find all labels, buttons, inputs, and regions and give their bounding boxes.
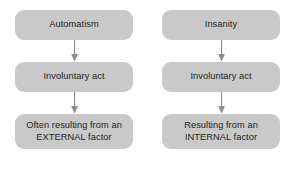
arrow-involuntary-to-internal bbox=[162, 92, 280, 114]
node-involuntary-act-right-label: Involuntary act bbox=[166, 71, 276, 82]
node-external-factor-line2: EXTERNAL factor bbox=[36, 132, 111, 142]
node-automatism: Automatism bbox=[15, 10, 133, 40]
down-arrow-icon bbox=[217, 40, 226, 62]
node-external-factor-line1: Often resulting from an bbox=[26, 120, 122, 130]
node-internal-factor-label: Resulting from an INTERNAL factor bbox=[166, 120, 276, 143]
node-insanity: Insanity bbox=[162, 10, 280, 40]
node-involuntary-act-left: Involuntary act bbox=[15, 62, 133, 92]
arrow-involuntary-to-external bbox=[15, 92, 133, 114]
down-arrow-icon bbox=[217, 92, 226, 114]
node-external-factor: Often resulting from an EXTERNAL factor bbox=[15, 114, 133, 149]
arrow-automatism-to-involuntary bbox=[15, 40, 133, 62]
node-involuntary-act-left-label: Involuntary act bbox=[19, 71, 129, 82]
node-automatism-label: Automatism bbox=[19, 19, 129, 30]
node-internal-factor-line1: Resulting from an bbox=[184, 120, 258, 130]
flow-column-automatism: Automatism Involuntary act Often resulti… bbox=[1, 10, 148, 149]
node-internal-factor-line2: INTERNAL factor bbox=[185, 132, 257, 142]
node-internal-factor: Resulting from an INTERNAL factor bbox=[162, 114, 280, 149]
down-arrow-icon bbox=[70, 92, 79, 114]
arrow-insanity-to-involuntary bbox=[162, 40, 280, 62]
flowchart-diagram: Automatism Involuntary act Often resulti… bbox=[0, 0, 295, 174]
node-external-factor-label: Often resulting from an EXTERNAL factor bbox=[19, 120, 129, 143]
down-arrow-icon bbox=[70, 40, 79, 62]
node-involuntary-act-right: Involuntary act bbox=[162, 62, 280, 92]
flow-column-insanity: Insanity Involuntary act Resulting from … bbox=[148, 10, 295, 149]
node-insanity-label: Insanity bbox=[166, 19, 276, 30]
